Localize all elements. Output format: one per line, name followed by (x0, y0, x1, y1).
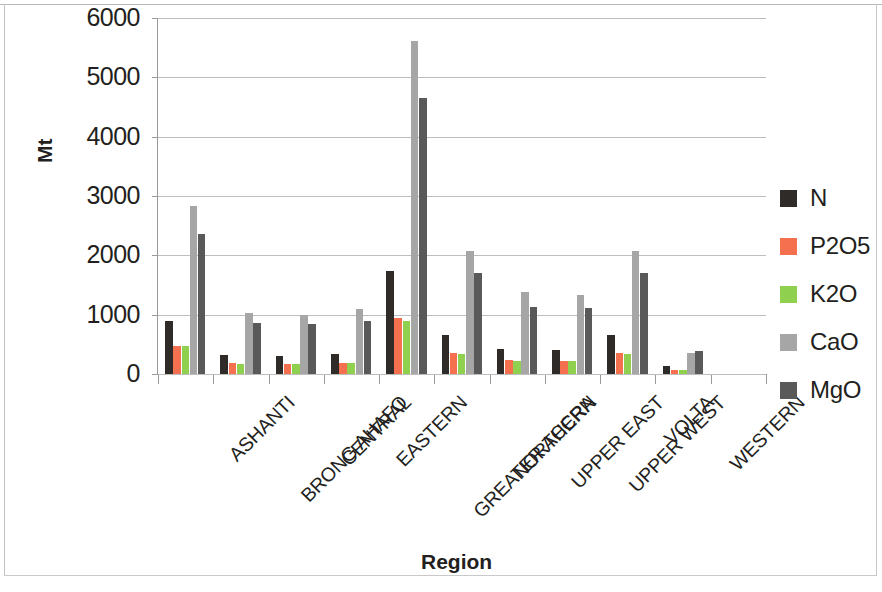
x-axis-tick (269, 375, 270, 384)
chart-screenshot: 0100020003000400050006000 Mt Region ASHA… (0, 0, 882, 592)
bar-p2o5-central (284, 364, 292, 374)
page-border-bottom (4, 575, 876, 576)
x-axis-category-label: EASTERN (392, 391, 472, 471)
bar-cao-western (687, 353, 695, 374)
bar-k2o-upper-east (513, 361, 521, 374)
bar-cao-ashanti (190, 206, 198, 374)
legend-item-cao[interactable]: CaO (780, 330, 858, 354)
bar-n-upper-west (552, 350, 560, 374)
y-axis-tick-label: 4000 (86, 124, 140, 149)
bar-mgo-volta (640, 273, 648, 374)
y-axis-tick-label: 0 (127, 361, 140, 386)
bar-p2o5-ashanti (173, 346, 181, 374)
bar-p2o5-northern (450, 353, 458, 374)
gridline (158, 196, 766, 197)
bar-n-brong-ahafo (220, 355, 228, 374)
bar-p2o5-upper-east (505, 360, 513, 374)
y-axis-tick-label: 3000 (86, 183, 140, 208)
y-axis-tick (152, 137, 158, 138)
gridline (158, 77, 766, 78)
bar-n-ashanti (165, 321, 173, 374)
bar-k2o-volta (624, 354, 632, 374)
x-axis-category-label: VOLTA (659, 391, 718, 450)
bar-k2o-western (679, 370, 687, 374)
legend-item-k2o[interactable]: K2O (780, 282, 857, 306)
bar-k2o-greater-accra (403, 321, 411, 374)
bar-k2o-central (292, 364, 300, 374)
bar-n-greater-accra (386, 271, 394, 374)
y-axis-title: Mt (33, 139, 57, 164)
bar-k2o-northern (458, 354, 466, 374)
page-border-right (876, 4, 877, 576)
y-axis-tick-label: 5000 (86, 64, 140, 89)
legend-item-p2o5[interactable]: P2O5 (780, 234, 870, 258)
bar-mgo-central (308, 324, 316, 374)
bar-n-western (663, 366, 671, 374)
bar-k2o-eastern (347, 363, 355, 374)
bar-cao-volta (632, 251, 640, 374)
y-axis-tick (152, 77, 158, 78)
legend-swatch-icon (780, 286, 797, 303)
y-axis-tick-label: 6000 (86, 5, 140, 30)
bar-mgo-ashanti (198, 234, 206, 374)
legend-swatch-icon (780, 238, 797, 255)
bar-n-central (276, 356, 284, 374)
gridline (158, 255, 766, 256)
bar-mgo-upper-east (530, 307, 538, 374)
bar-mgo-eastern (364, 321, 372, 374)
bar-mgo-upper-west (585, 308, 593, 374)
x-axis-category-label: ASHANTI (224, 391, 299, 466)
bar-cao-central (300, 315, 308, 374)
x-axis-tick (766, 375, 767, 384)
y-axis-tick (152, 18, 158, 19)
y-axis-tick-label: 1000 (86, 302, 140, 327)
legend-swatch-icon (780, 190, 797, 207)
gridline (158, 374, 766, 375)
bar-p2o5-eastern (339, 363, 347, 374)
gridline (158, 137, 766, 138)
x-axis-tick (711, 375, 712, 384)
bar-k2o-ashanti (182, 346, 190, 374)
bar-cao-greater-accra (411, 41, 419, 374)
bar-n-upper-east (497, 349, 505, 375)
bar-cao-upper-east (521, 292, 529, 374)
x-axis-category-label: UPPER WEST (624, 391, 730, 497)
x-axis-tick (434, 375, 435, 384)
x-axis-title: Region (421, 550, 492, 574)
legend-label: CaO (810, 330, 858, 354)
x-axis-tick (600, 375, 601, 384)
bar-mgo-western (695, 351, 703, 374)
x-axis-category-label: GREATER ACCRA (468, 391, 599, 522)
bar-cao-eastern (356, 309, 364, 374)
x-axis-category-label: BRONG AHAFO (296, 391, 412, 507)
bar-p2o5-volta (616, 353, 624, 374)
y-axis-tick-labels: 0100020003000400050006000 (0, 0, 152, 392)
y-axis-tick (152, 315, 158, 316)
legend-item-mgo[interactable]: MgO (780, 378, 861, 402)
bar-mgo-northern (474, 273, 482, 374)
y-axis-tick (152, 255, 158, 256)
bar-p2o5-western (671, 370, 679, 374)
y-axis-tick-label: 2000 (86, 242, 140, 267)
bar-cao-brong-ahafo (245, 313, 253, 374)
x-axis-tick (655, 375, 656, 384)
bar-n-northern (442, 335, 450, 374)
x-axis-category-label: CENTRAL (336, 391, 416, 471)
y-axis-tick (152, 196, 158, 197)
x-axis-category-label: WESTERN (725, 391, 809, 475)
bar-k2o-brong-ahafo (237, 364, 245, 374)
bar-k2o-upper-west (568, 361, 576, 374)
x-axis-category-label: UPPER EAST (567, 391, 669, 493)
legend-item-n[interactable]: N (780, 186, 827, 210)
legend-swatch-icon (780, 382, 797, 399)
x-axis-tick (324, 375, 325, 384)
bar-p2o5-greater-accra (394, 318, 402, 374)
x-axis-tick (379, 375, 380, 384)
bar-mgo-brong-ahafo (253, 323, 261, 374)
legend-swatch-icon (780, 334, 797, 351)
plot-area (158, 18, 766, 374)
x-axis-category-label: NORTHERN (508, 391, 601, 484)
legend-label: MgO (810, 378, 861, 402)
x-axis-tick (545, 375, 546, 384)
legend-label: N (810, 186, 827, 210)
